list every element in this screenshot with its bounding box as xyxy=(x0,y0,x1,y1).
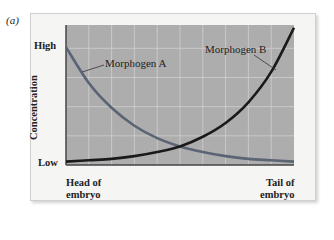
x-tick-head: Head of embryo xyxy=(66,177,101,201)
y-tick-high: High xyxy=(34,40,56,51)
x-tick-tail-line1: Tail of xyxy=(260,177,294,189)
x-tick-tail: Tail of embryo xyxy=(260,177,294,201)
y-tick-low: Low xyxy=(38,157,58,168)
morphogen-b-label: Morphogen B xyxy=(205,43,266,55)
x-tick-head-line2: embryo xyxy=(66,189,101,201)
x-tick-tail-line2: embryo xyxy=(260,189,294,201)
x-tick-head-line1: Head of xyxy=(66,177,101,189)
morphogen-a-label: Morphogen A xyxy=(105,57,166,69)
y-axis-label: Concentration xyxy=(28,75,39,140)
